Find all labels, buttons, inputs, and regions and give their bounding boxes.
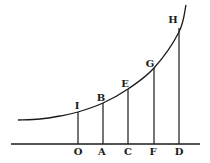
curve-point-label-h: H (168, 14, 177, 25)
baseline-point-labels: OACFD (74, 146, 184, 157)
baseline-point-label-c: C (124, 146, 132, 157)
curve-point-label-b: B (97, 92, 105, 103)
baseline-point-label-a: A (97, 146, 106, 157)
baseline-point-label-d: D (175, 146, 184, 157)
baseline-point-label-f: F (149, 146, 156, 157)
baseline-point-label-o: O (74, 146, 83, 157)
curve-point-label-g: G (146, 58, 155, 69)
curve-point-label-e: E (121, 78, 129, 89)
curve-diagram: IBEGH OACFD (0, 0, 210, 163)
curve-point-label-i: I (75, 100, 80, 111)
curve-point-labels: IBEGH (75, 14, 178, 111)
